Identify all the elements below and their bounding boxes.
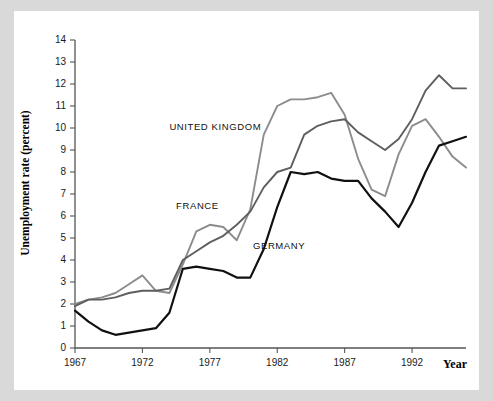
y-axis-title: Unemployment rate (percent) (19, 83, 31, 283)
series-label-united-kingdom: UNITED KINGDOM (169, 121, 261, 132)
x-tick-label: 1977 (199, 357, 222, 368)
axis-ticks-group: 0123456789101112131419671972197719821987… (55, 34, 424, 368)
y-tick-label: 10 (55, 122, 67, 133)
y-axis-title-wrap: Unemployment rate (percent) (11, 11, 31, 390)
x-tick-label: 1972 (131, 357, 154, 368)
x-tick-label: 1967 (64, 357, 87, 368)
y-tick-label: 12 (55, 78, 67, 89)
y-tick-label: 4 (60, 254, 66, 265)
x-tick-label: 1982 (266, 357, 289, 368)
axis-lines-group (75, 40, 466, 348)
series-label-france: FRANCE (176, 200, 219, 211)
x-tick-label: 1992 (401, 357, 424, 368)
series-group (75, 75, 466, 335)
y-tick-label: 6 (60, 210, 66, 221)
y-tick-label: 11 (56, 100, 67, 111)
series-label-germany: GERMANY (253, 240, 305, 251)
x-tick-label: 1987 (334, 357, 357, 368)
line-chart: 0123456789101112131419671972197719821987… (14, 11, 479, 390)
series-line-france (75, 75, 466, 306)
series-line-germany (75, 137, 466, 335)
y-tick-label: 7 (60, 188, 66, 199)
y-tick-label: 8 (60, 166, 66, 177)
y-tick-label: 13 (55, 56, 67, 67)
y-tick-label: 0 (60, 342, 66, 353)
x-axis-title: Year (443, 357, 467, 372)
y-tick-label: 14 (55, 34, 67, 45)
chart-figure: Unemployment rate (percent) 012345678910… (14, 11, 479, 390)
y-tick-label: 3 (60, 276, 66, 287)
y-tick-label: 9 (60, 144, 66, 155)
y-tick-label: 5 (60, 232, 66, 243)
y-tick-label: 2 (60, 298, 66, 309)
y-tick-label: 1 (60, 320, 66, 331)
